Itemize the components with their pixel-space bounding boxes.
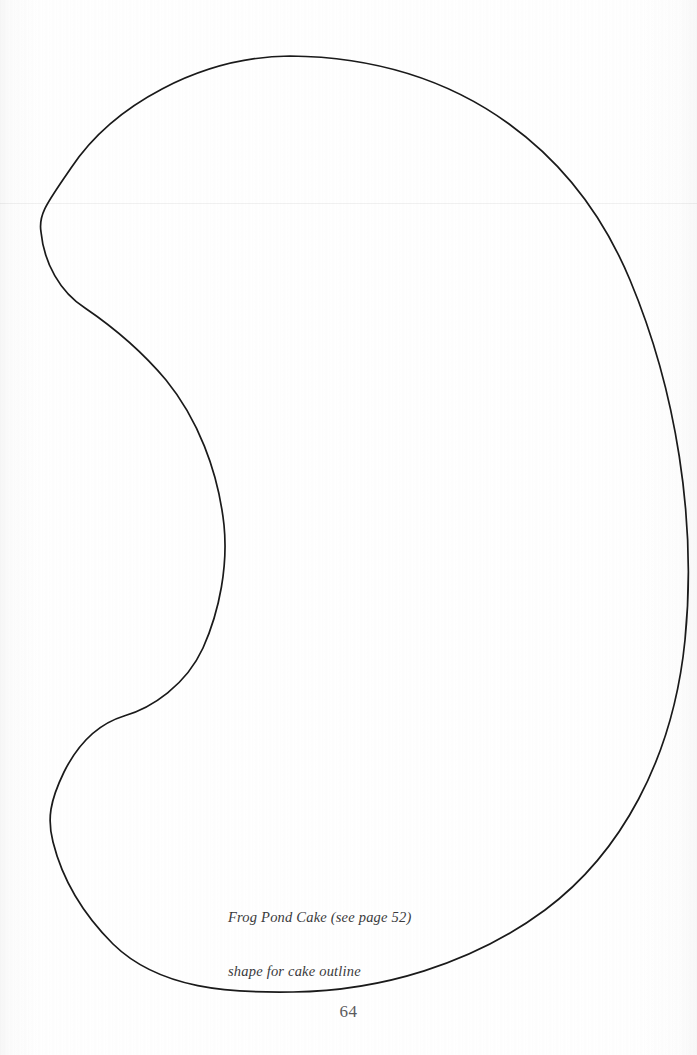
template-caption: Frog Pond Cake (see page 52) shape for c… <box>228 872 411 1016</box>
caption-line-title: Frog Pond Cake (see page 52) <box>228 908 411 926</box>
page-number: 64 <box>0 1002 697 1022</box>
cake-outline-path <box>40 56 688 992</box>
caption-line-subtitle: shape for cake outline <box>228 962 411 980</box>
scanned-book-page: Frog Pond Cake (see page 52) shape for c… <box>0 0 697 1055</box>
